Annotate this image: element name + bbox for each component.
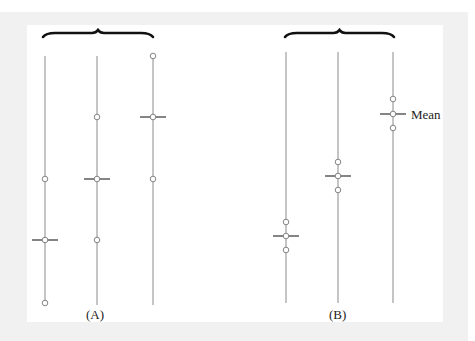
data-point [42,176,48,182]
brace-icon [43,30,153,37]
data-point [390,125,396,131]
data-point [94,114,100,120]
data-point [283,233,289,239]
mean-label: Mean [411,107,441,123]
data-point [390,96,396,102]
data-point [42,300,48,306]
data-point [335,173,341,179]
data-point [150,114,156,120]
data-point [150,176,156,182]
data-point [94,237,100,243]
data-point [283,219,289,225]
data-point [42,237,48,243]
data-point [150,53,156,59]
data-point [283,247,289,253]
panel-label-b: (B) [329,307,346,323]
brace-icon [285,30,394,37]
data-point [94,176,100,182]
data-point [390,111,396,117]
panel-label-a: (A) [86,307,104,323]
dot-plot-diagram [0,0,475,341]
data-point [335,159,341,165]
data-point [335,187,341,193]
